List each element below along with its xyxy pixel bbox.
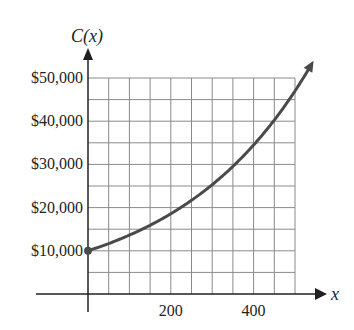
y-axis-arrow-icon [83,48,93,60]
x-tick-label: 400 [242,302,266,319]
y-tick-label: $10,000 [31,242,83,259]
grid [88,78,295,294]
x-tick-label: 200 [159,302,183,319]
y-tick-label: $30,000 [31,155,83,172]
x-axis-label: x [330,284,339,304]
chart: C(x) x $10,000$20,000$30,000$40,000$50,0… [0,0,354,330]
y-tick-labels: $10,000$20,000$30,000$40,000$50,000 [31,69,83,259]
cost-curve [88,64,312,251]
y-tick-label: $40,000 [31,112,83,129]
x-axis-arrow-icon [315,288,327,300]
start-point [84,247,92,255]
x-tick-labels: 200400 [159,302,266,319]
y-tick-label: $20,000 [31,199,83,216]
y-axis-label: C(x) [71,26,103,47]
y-tick-label: $50,000 [31,69,83,86]
